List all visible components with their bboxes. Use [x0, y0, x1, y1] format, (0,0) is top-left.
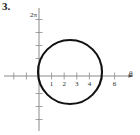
x-tick-label-2: 2 — [59, 81, 69, 88]
x-axis-label: θ — [129, 71, 133, 78]
x-tick-label-4: 4 — [84, 81, 94, 88]
plot-svg — [0, 0, 140, 135]
x-axis-group — [4, 73, 133, 80]
plot-area: 2π θ 1 2 3 4 6 — [0, 0, 140, 135]
y-axis-label: 2π — [30, 12, 37, 19]
x-tick-label-6: 6 — [110, 81, 120, 88]
x-tick-label-1: 1 — [47, 81, 57, 88]
x-tick-label-3: 3 — [72, 81, 82, 88]
curve-group — [38, 40, 102, 104]
figure-container: 3. — [0, 0, 140, 135]
circle-curve — [38, 40, 102, 104]
